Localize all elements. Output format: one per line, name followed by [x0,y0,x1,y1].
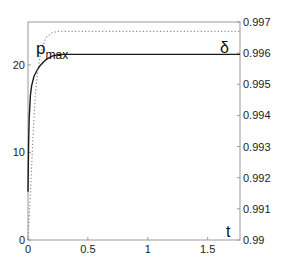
x-tick-label: 0.5 [80,243,95,255]
delta-label: δ [220,39,229,56]
right-tick-label: 0.995 [243,78,271,90]
t-label: t [226,223,231,240]
chart: 00.511.5 01020 0.990.9910.9920.9930.9940… [0,0,282,270]
right-tick-label: 0.99 [243,234,264,246]
left-tick-label: 10 [13,146,25,158]
right-tick-label: 0.992 [243,172,271,184]
right-tick-label: 0.997 [243,16,271,28]
x-tick-label: 0 [25,243,31,255]
right-tick-label: 0.994 [243,109,271,121]
right-tick-label: 0.993 [243,141,271,153]
pmax-curve [28,54,240,191]
left-tick-label: 0 [19,234,25,246]
delta-curve [28,31,240,240]
left-tick-label: 20 [13,59,25,71]
x-tick-label: 1 [145,243,151,255]
right-tick-label: 0.991 [243,203,271,215]
x-tick-label: 1.5 [200,243,215,255]
right-axis-ticks: 0.990.9910.9920.9930.9940.9950.9960.997 [237,16,271,246]
pmax-label: pmax [36,39,68,62]
right-tick-label: 0.996 [243,47,271,59]
